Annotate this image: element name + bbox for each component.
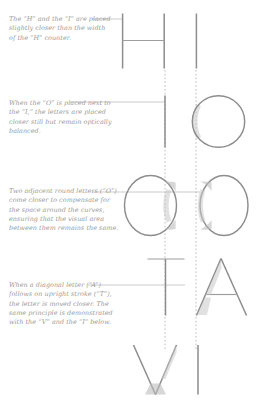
specimen-V [134, 345, 177, 395]
caption-o-i: When the “O” is placed next to the “I,” … [9, 99, 113, 136]
specimen-T [148, 259, 185, 316]
specimen-O-row3-right [198, 176, 248, 236]
caption-t-a: When a diagonal letter (“A”) follows on … [9, 281, 113, 327]
specimen-A [197, 259, 247, 316]
caption-h-i: The “H” and the “I” are placed slightly … [9, 15, 113, 43]
specimen-O-row3-left [125, 176, 177, 236]
specimen-O-row2 [192, 96, 244, 148]
diagram-page: The “H” and the “I” are placed slightly … [0, 0, 259, 409]
specimen-H [123, 14, 165, 69]
caption-o-o: Two adjacent round letters (“O”) come cl… [9, 187, 119, 233]
